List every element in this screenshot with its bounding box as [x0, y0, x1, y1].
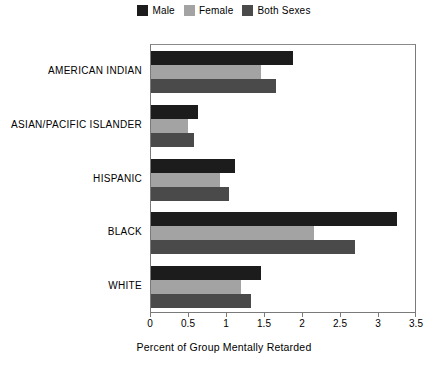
bars-layer — [151, 45, 415, 312]
x-axis-tick-label: 2.5 — [333, 318, 347, 329]
x-axis-tick — [150, 313, 151, 317]
bar — [151, 65, 261, 79]
legend-swatch-icon — [242, 5, 253, 16]
bar — [151, 266, 261, 280]
legend-item[interactable]: Female — [184, 5, 234, 16]
x-axis-tick-label: 3 — [375, 318, 381, 329]
category-axis-labels: AMERICAN INDIANASIAN/PACIFIC ISLANDERHIS… — [0, 44, 146, 313]
category-label: AMERICAN INDIAN — [0, 65, 142, 76]
plot-area — [150, 44, 416, 313]
x-axis-tick — [226, 313, 227, 317]
x-axis-tick — [340, 313, 341, 317]
chart-root: MaleFemaleBoth Sexes AMERICAN INDIANASIA… — [0, 0, 448, 374]
x-axis-tick-label: 0 — [147, 318, 153, 329]
category-label: WHITE — [0, 280, 142, 291]
bar — [151, 159, 235, 173]
bar — [151, 280, 241, 294]
x-axis-tick-label: 3.5 — [409, 318, 423, 329]
bar — [151, 187, 229, 201]
chart-legend: MaleFemaleBoth Sexes — [0, 3, 448, 17]
x-axis-tick-label: 1 — [223, 318, 229, 329]
legend-swatch-icon — [184, 5, 195, 16]
category-label: HISPANIC — [0, 173, 142, 184]
bar — [151, 294, 251, 308]
x-axis-tick-label: 2 — [299, 318, 305, 329]
x-axis-tick — [264, 313, 265, 317]
legend-item[interactable]: Male — [137, 5, 174, 16]
x-axis-tick — [188, 313, 189, 317]
bar — [151, 212, 397, 226]
bar — [151, 226, 314, 240]
x-axis-tick — [415, 313, 416, 317]
bar — [151, 119, 188, 133]
legend-label: Female — [199, 5, 234, 16]
x-axis-tick — [378, 313, 379, 317]
bar — [151, 105, 198, 119]
legend-label: Male — [152, 5, 174, 16]
legend-item[interactable]: Both Sexes — [242, 5, 310, 16]
x-axis-tick-label: 1.5 — [257, 318, 271, 329]
category-label: ASIAN/PACIFIC ISLANDER — [0, 119, 142, 130]
x-axis-tick-label: 0.5 — [181, 318, 195, 329]
bar — [151, 173, 220, 187]
bar — [151, 240, 355, 254]
legend-swatch-icon — [137, 5, 148, 16]
category-label: BLACK — [0, 226, 142, 237]
legend-label: Both Sexes — [257, 5, 310, 16]
bar — [151, 133, 194, 147]
x-axis: 00.511.522.533.5 — [150, 313, 416, 343]
x-axis-tick — [302, 313, 303, 317]
x-axis-title: Percent of Group Mentally Retarded — [0, 341, 448, 353]
bar — [151, 51, 293, 65]
bar — [151, 79, 276, 93]
